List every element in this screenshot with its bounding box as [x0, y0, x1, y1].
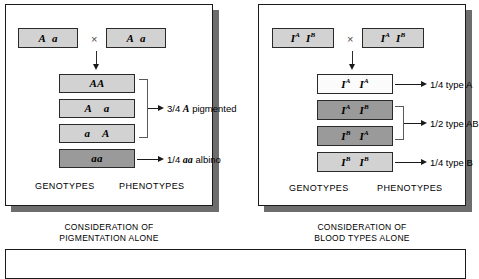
blood-types-panel: IA IB × IA IB IA IA IA IB IB IA IB IB: [258, 4, 466, 206]
blood-offspring-IBIB-box: IB IB: [317, 152, 393, 172]
allele-pair-label: IB IB: [341, 157, 369, 168]
blood-offspring-IBIA-box: IB IA: [317, 126, 393, 146]
type-ab-arrow-shaft: [404, 123, 422, 124]
blood-types-caption-line1: CONSIDERATION OF: [258, 222, 466, 233]
allele-pair-label: IB IA: [341, 131, 369, 142]
blood-phenotypes-header: PHENOTYPES: [377, 184, 443, 193]
allele-pair-label: A a: [121, 33, 150, 44]
blood-parent-left-box: IA IB: [272, 28, 334, 48]
blood-types-caption: CONSIDERATION OF BLOOD TYPES ALONE: [258, 222, 466, 244]
pigmentation-phenotypes-header: PHENOTYPES: [119, 182, 185, 191]
phenotype-type-b-label: 1/4 type B: [430, 158, 473, 168]
bottom-panel: [5, 249, 466, 279]
allele-pair-label: IA IB: [286, 33, 321, 44]
blood-genotypes-header: GENOTYPES: [289, 184, 349, 193]
phenotype-type-ab-label: 1/2 type AB: [430, 119, 479, 129]
pigmentation-parent-left-box: A a: [18, 28, 78, 48]
blood-offspring-IAIB-box: IA IB: [317, 100, 393, 120]
albino-arrow-shaft: [137, 159, 159, 160]
albino-arrow-head: [158, 156, 164, 162]
phenotype-type-a-label: 1/4 type A: [430, 80, 472, 90]
cross-symbol: ×: [347, 33, 353, 45]
pigmentation-offspring-Aa-box: A a: [59, 99, 135, 118]
allele-pair-label: IA IA: [341, 79, 369, 90]
pigmented-arrow-head: [158, 105, 164, 111]
blood-genotype-bracket: [395, 106, 404, 140]
cross-symbol: ×: [91, 33, 97, 45]
allele-pair-label: a A: [84, 128, 109, 139]
pigmentation-genotypes-header: GENOTYPES: [35, 182, 95, 191]
cross-arrow-head: [93, 64, 99, 70]
pigmentation-genotype-bracket: [139, 79, 148, 138]
allele-pair-label: AA: [89, 78, 104, 89]
phenotype-pigmented-label: 3/4 A pigmented: [167, 104, 237, 114]
blood-parent-right-box: IA IB: [362, 28, 424, 48]
type-b-arrow-head: [421, 159, 427, 165]
type-ab-arrow-head: [421, 120, 427, 126]
allele-pair-label: A a: [84, 103, 109, 114]
pigmentation-offspring-aA-box: a A: [59, 124, 135, 143]
cross-arrow-head: [349, 64, 355, 70]
type-b-arrow-shaft: [395, 162, 422, 163]
pigmentation-panel: A a × A a AA A a a A aa: [5, 4, 213, 206]
allele-pair-label: IA IB: [341, 105, 369, 116]
type-a-arrow-shaft: [395, 84, 422, 85]
pigmentation-offspring-AA-box: AA: [59, 74, 135, 93]
allele-pair-label: A a: [33, 33, 62, 44]
allele-pair-label: IA IB: [376, 33, 411, 44]
pigmentation-offspring-aa-box: aa: [59, 149, 135, 168]
pigmentation-caption-line1: CONSIDERATION OF: [5, 222, 213, 233]
pigmentation-caption-line2: PIGMENTATION ALONE: [5, 233, 213, 244]
blood-offspring-IAIA-box: IA IA: [317, 74, 393, 94]
phenotype-albino-label: 1/4 aa albino: [167, 155, 221, 165]
pigmentation-parent-right-box: A a: [106, 28, 166, 48]
pigmentation-caption: CONSIDERATION OF PIGMENTATION ALONE: [5, 222, 213, 244]
blood-types-caption-line2: BLOOD TYPES ALONE: [258, 233, 466, 244]
type-a-arrow-head: [421, 81, 427, 87]
allele-pair-label: aa: [91, 153, 102, 164]
